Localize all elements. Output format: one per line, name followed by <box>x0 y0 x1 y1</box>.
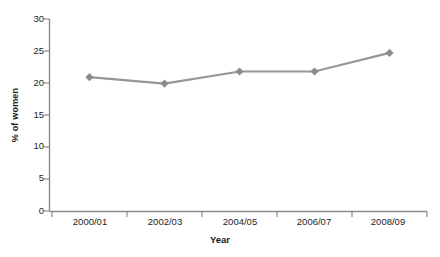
line-chart: % of women 30 25 20 15 10 5 0 2000/01 20… <box>0 0 440 257</box>
x-axis-ticks <box>52 212 427 218</box>
data-point-2000/01 <box>85 73 93 81</box>
y-axis-ticks <box>44 19 50 211</box>
plot-area <box>0 0 440 257</box>
data-point-2002/03 <box>160 80 168 88</box>
data-point-2008/09 <box>385 49 393 57</box>
data-point-2006/07 <box>310 67 318 75</box>
data-point-2004/05 <box>235 67 243 75</box>
